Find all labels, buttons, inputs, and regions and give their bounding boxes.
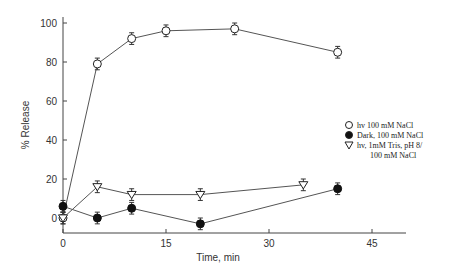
filled-circle-marker bbox=[196, 220, 204, 228]
open-circle-marker bbox=[231, 25, 239, 33]
open-circle-marker bbox=[93, 60, 101, 68]
y-tick-label: 100 bbox=[40, 18, 57, 29]
x-axis-title: Time, min bbox=[196, 252, 240, 263]
x-tick-label: 45 bbox=[366, 238, 378, 249]
x-tick-label: 15 bbox=[160, 238, 172, 249]
legend-open-circle-icon bbox=[346, 122, 353, 129]
filled-circle-marker bbox=[59, 202, 67, 210]
y-tick-label: 0 bbox=[51, 213, 57, 224]
y-tick-label: 60 bbox=[46, 96, 58, 107]
legend-item: hv, 1mM Tris, pH 8/100 mM NaCl bbox=[345, 141, 423, 160]
legend-label-continued: 100 mM NaCl bbox=[370, 151, 417, 160]
filled-circle-marker bbox=[93, 214, 101, 222]
x-tick-label: 30 bbox=[263, 238, 275, 249]
legend-item: hv 100 mM NaCl bbox=[346, 121, 415, 130]
y-tick-label: 20 bbox=[46, 174, 58, 185]
filled-circle-marker bbox=[128, 204, 136, 212]
x-tick-label: 0 bbox=[60, 238, 66, 249]
legend-label: Dark, 100 mM NaCl bbox=[357, 131, 424, 140]
filled-circle-marker bbox=[334, 185, 342, 193]
open-circle-marker bbox=[334, 48, 342, 56]
chart: 0204060801000153045 hv 100 mM NaClDark, … bbox=[0, 0, 459, 272]
legend-label: hv, 1mM Tris, pH 8/ bbox=[357, 141, 423, 150]
open-circle-marker bbox=[128, 35, 136, 43]
legend-filled-circle-icon bbox=[346, 132, 353, 139]
legend-label: hv 100 mM NaCl bbox=[357, 121, 414, 130]
series-line bbox=[63, 185, 303, 218]
series-layer bbox=[59, 23, 342, 230]
y-tick-label: 80 bbox=[46, 57, 58, 68]
legend-item: Dark, 100 mM NaCl bbox=[346, 131, 424, 140]
open-circle-marker bbox=[162, 27, 170, 35]
legend: hv 100 mM NaClDark, 100 mM NaClhv, 1mM T… bbox=[345, 121, 424, 160]
y-tick-label: 40 bbox=[46, 135, 58, 146]
legend-triangle-icon bbox=[345, 142, 353, 149]
y-axis-title: % Release bbox=[20, 100, 31, 149]
